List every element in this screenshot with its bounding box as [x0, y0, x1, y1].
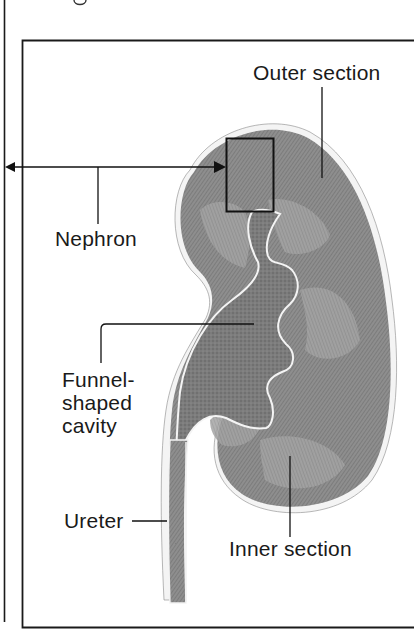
inner-section-label: Inner section: [229, 537, 352, 561]
ureter-label: Ureter: [64, 509, 124, 533]
funnel-cavity-label: Funnel- shaped cavity: [62, 368, 135, 437]
kidney-diagram: Outer section Nephron Funnel- shaped cav…: [0, 0, 414, 636]
kidney-illustration: [0, 0, 414, 636]
nephron-label: Nephron: [55, 227, 137, 251]
cropped-caption-glyph: [74, 0, 86, 5]
arrowhead-left-icon: [5, 162, 15, 172]
outer-section-label: Outer section: [253, 61, 381, 85]
ureter-tube: [169, 440, 189, 603]
